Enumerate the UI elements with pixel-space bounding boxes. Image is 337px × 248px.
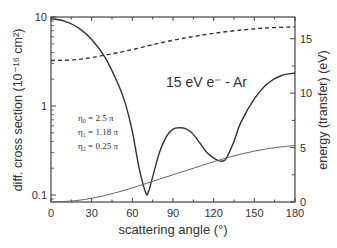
left-tick-label: 1 [41, 100, 47, 112]
series-line-0 [51, 19, 295, 195]
series-layer [51, 19, 295, 202]
right-tick-label: 10 [300, 87, 312, 99]
annotation-param-0: η₀ = 2.5 π [78, 113, 114, 123]
annotation-title: 15 eV e⁻ - Ar [166, 74, 247, 90]
right-axis-label: energy (transfer) (eV) [316, 50, 330, 169]
x-tick-label: 180 [286, 207, 304, 219]
plot-frame [51, 17, 295, 202]
chart: 0306090120150180 0.1110 051015 scatterin… [0, 0, 337, 248]
left-axis-label: diff. cross section (10⁻¹⁶ cm²) [11, 29, 25, 192]
right-tick-label: 5 [300, 142, 306, 154]
left-tick-label: 10 [35, 11, 47, 23]
annotation-param-2: η₂ = 0.25 π [78, 141, 118, 151]
x-tick-label: 120 [204, 207, 222, 219]
series-line-2 [51, 145, 295, 202]
annotation-param-1: η₁ = 1.18 π [78, 127, 118, 137]
right-tick-label: 15 [300, 33, 312, 45]
series-line-1 [51, 27, 295, 61]
right-tick-label: 0 [300, 196, 306, 208]
x-tick-label: 30 [86, 207, 98, 219]
right-axis-ticks: 051015 [290, 33, 312, 208]
x-tick-label: 60 [126, 207, 138, 219]
left-axis-ticks: 0.1110 [32, 11, 56, 201]
x-tick-label: 90 [167, 207, 179, 219]
x-axis-label: scattering angle (°) [118, 222, 227, 237]
x-tick-label: 0 [48, 207, 54, 219]
x-tick-label: 150 [245, 207, 263, 219]
left-tick-label: 0.1 [32, 189, 47, 201]
